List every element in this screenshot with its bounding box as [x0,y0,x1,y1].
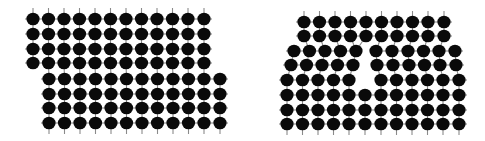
atom [421,118,434,131]
atom [213,117,226,130]
atom [390,16,403,29]
atom [150,57,163,70]
atom [135,13,148,26]
atom [166,57,179,70]
atom [374,74,387,87]
atom [151,73,164,86]
atom [280,118,293,131]
atom [104,117,117,130]
atom [311,89,324,102]
atom [437,16,450,29]
atom [342,104,355,117]
atom [375,16,388,29]
atom [358,118,371,131]
atom [334,45,347,58]
atom [119,13,132,26]
atom [342,118,355,131]
atom [181,28,194,41]
atom [197,88,210,101]
vacancy-lattice-panel [279,11,467,135]
atom [436,104,449,117]
atom [73,117,86,130]
atom [73,13,86,26]
atom [73,88,86,101]
atom [88,28,101,41]
atom [42,43,55,56]
atom [42,13,55,26]
atom [386,59,399,72]
atom [370,59,383,72]
atom [436,74,449,87]
atom [197,73,210,86]
atom [57,28,70,41]
atom [297,16,310,29]
atom [88,43,101,56]
atom [327,104,340,117]
atom [26,57,39,70]
atom [119,28,132,41]
atom [401,45,414,58]
atom [213,102,226,115]
atom [296,89,309,102]
atom [287,45,300,58]
atom [197,28,210,41]
atom [166,73,179,86]
atom [42,28,55,41]
atom [26,43,39,56]
atom [390,74,403,87]
atom [390,89,403,102]
atom [375,30,388,43]
atom [374,104,387,117]
atom [452,104,465,117]
atom [42,102,55,115]
atom [58,88,71,101]
atom [359,16,372,29]
atom [402,59,415,72]
atom [421,104,434,117]
atom [197,57,210,70]
atom [359,30,372,43]
atom [342,89,355,102]
atom [421,30,434,43]
atom [311,118,324,131]
atom [436,89,449,102]
atom [213,73,226,86]
atom [303,45,316,58]
atom [88,13,101,26]
atom [358,89,371,102]
atom [166,102,179,115]
atom [89,102,102,115]
atom [135,117,148,130]
atom [89,88,102,101]
offset-lattice-panel [25,8,228,134]
atom [73,102,86,115]
lattice-figure [0,0,485,141]
atom [300,59,313,72]
atom [57,13,70,26]
atom [181,43,194,56]
atom [405,104,418,117]
atom [296,118,309,131]
atom [182,73,195,86]
atom [448,45,461,58]
atom [390,30,403,43]
atom [327,89,340,102]
atom [57,43,70,56]
atom [405,74,418,87]
atom [197,102,210,115]
atom [346,59,359,72]
atom [421,89,434,102]
atom [166,13,179,26]
atom [318,45,331,58]
atom [120,73,133,86]
atom [417,45,430,58]
atom [328,16,341,29]
atom [73,43,86,56]
atom [166,117,179,130]
atom [181,13,194,26]
atom [197,43,210,56]
atom [449,59,462,72]
atom [166,88,179,101]
atom [313,30,326,43]
atom [374,118,387,131]
